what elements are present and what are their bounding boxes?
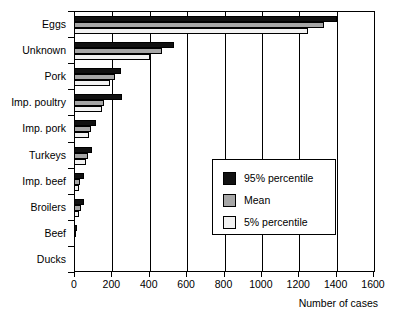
x-axis-tick-200 xyxy=(111,272,112,277)
x-axis-tick-label: 600 xyxy=(177,279,195,290)
legend-item: 5% percentile xyxy=(223,212,335,232)
bar-group xyxy=(75,116,374,142)
bar-p05 xyxy=(75,211,79,217)
x-axis-tick-1200 xyxy=(298,272,299,277)
y-axis-label: Eggs xyxy=(42,19,66,30)
bar-group xyxy=(75,90,374,116)
legend-swatch-icon xyxy=(223,172,236,185)
bar-group xyxy=(75,38,374,64)
legend-swatch-icon xyxy=(223,216,236,229)
bar-p05 xyxy=(75,80,110,86)
bar-group xyxy=(75,12,374,38)
bar-chart: EggsUnknownPorkImp. poultryImp. porkTurk… xyxy=(0,0,394,318)
bar-group xyxy=(75,64,374,90)
x-axis-tick-label: 400 xyxy=(140,279,158,290)
y-axis-label: Turkeys xyxy=(29,149,66,160)
y-axis-label: Imp. pork xyxy=(22,123,66,134)
x-axis-tick-0 xyxy=(74,272,75,277)
chart-legend: 95% percentileMean5% percentile xyxy=(212,159,336,235)
y-axis-label: Ducks xyxy=(37,254,66,265)
legend-swatch-icon xyxy=(223,194,236,207)
x-axis-tick-label: 0 xyxy=(71,279,77,290)
x-axis-tick-labels: 02004006008001000120014001600 xyxy=(74,279,375,293)
legend-label: Mean xyxy=(244,195,270,206)
x-axis-tick-1000 xyxy=(261,272,262,277)
legend-item: 95% percentile xyxy=(223,168,335,188)
x-axis-title: Number of cases xyxy=(0,298,378,309)
x-axis-tick-600 xyxy=(186,272,187,277)
x-axis-tick-label: 1200 xyxy=(287,279,310,290)
x-axis-tick-400 xyxy=(149,272,150,277)
x-axis-tick-label: 200 xyxy=(103,279,121,290)
x-axis-tick-label: 1400 xyxy=(324,279,347,290)
x-axis-tick-label: 1000 xyxy=(249,279,272,290)
x-axis-tick-1400 xyxy=(336,272,337,277)
bar-p05 xyxy=(75,54,150,60)
y-axis-label: Pork xyxy=(44,71,66,82)
bar-p05 xyxy=(75,185,79,191)
bar-group xyxy=(75,247,374,273)
bar-p05 xyxy=(75,159,86,165)
x-axis-tick-800 xyxy=(224,272,225,277)
bar-p05 xyxy=(75,132,89,138)
bar-p05 xyxy=(75,106,102,112)
y-axis-label: Beef xyxy=(44,228,66,239)
y-axis-label: Imp. beef xyxy=(22,175,66,186)
x-axis-tick-1600 xyxy=(373,272,374,277)
x-axis-tick-label: 1600 xyxy=(361,279,384,290)
y-axis-label: Imp. poultry xyxy=(11,97,66,108)
y-axis-label: Broilers xyxy=(30,202,66,213)
y-axis-label: Unknown xyxy=(22,45,66,56)
bar-p05 xyxy=(75,28,308,34)
x-axis-tick-label: 800 xyxy=(215,279,233,290)
legend-item: Mean xyxy=(223,190,335,210)
legend-label: 95% percentile xyxy=(244,173,313,184)
x-axis-ticks xyxy=(74,272,375,277)
legend-label: 5% percentile xyxy=(244,217,308,228)
bar-p05 xyxy=(75,237,76,243)
y-axis: EggsUnknownPorkImp. poultryImp. porkTurk… xyxy=(0,11,70,272)
